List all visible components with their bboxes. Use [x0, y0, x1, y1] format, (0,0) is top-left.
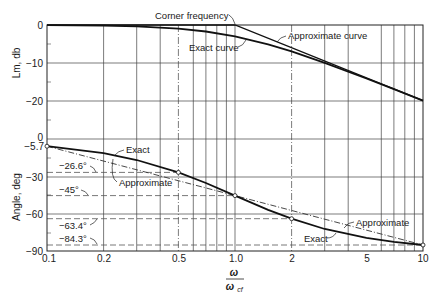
ref-arrow-26-6 [90, 166, 96, 172]
ref-label-84-3: −84.3° [59, 233, 87, 244]
bode-plot: 0 −10 −20 0 −5.7 −30 −60 −90 0.1 0.2 0.5… [0, 0, 441, 297]
ref-arrow-63-4 [90, 219, 97, 225]
phase-ylabel: Angle, deg [11, 173, 22, 221]
x-tick-5: 5 [364, 253, 370, 264]
minor-ticks [47, 44, 51, 233]
ref-label-63-4: −63.4° [59, 220, 87, 231]
annotation-corner-frequency: Corner frequency [155, 10, 229, 21]
approx-phase-arrow [112, 159, 117, 182]
mag-tick-0: 0 [37, 20, 43, 31]
mag-tick-10: −10 [26, 58, 43, 69]
approx-curve-arrow [277, 36, 286, 42]
exact-phase-arrow [115, 150, 124, 155]
x-tick-1: 1.0 [229, 253, 243, 264]
x-tick-2: 2 [289, 253, 295, 264]
ref-arrow-84-3 [90, 238, 97, 244]
corner-arrow [229, 15, 235, 24]
ref-arrow-45 [81, 190, 88, 195]
phase-tick-5-7: −5.7 [24, 141, 44, 152]
phase-tick-30: −30 [26, 172, 43, 183]
x-label-denominator: ω [226, 281, 235, 292]
x-label-subscript: cf [237, 286, 244, 293]
annotation-approximate-phase: Approximate [119, 177, 172, 188]
x-label-numerator: ω [230, 267, 239, 278]
x-tick-0-1: 0.1 [42, 253, 56, 264]
mag-ylabel: Lm, db [11, 47, 22, 78]
annotation-exact-curve: Exact curve [189, 42, 239, 53]
exact-curve-arrow [238, 40, 246, 47]
x-tick-10: 10 [417, 253, 429, 264]
exact-phase-right-arrow [327, 233, 336, 238]
phase-tick-60: −60 [26, 209, 43, 220]
x-tick-0-5: 0.5 [172, 253, 186, 264]
ref-label-45: −45° [59, 184, 79, 195]
annotation-exact-phase: Exact [126, 144, 150, 155]
mag-tick-20: −20 [26, 96, 43, 107]
annotation-approximate-curve: Approximate curve [288, 30, 367, 41]
annotation-approximate-phase-right: Approximate [356, 217, 409, 228]
annotation-exact-phase-right: Exact [304, 233, 328, 244]
x-tick-0-2: 0.2 [97, 253, 111, 264]
ref-label-26-6: −26.6° [59, 160, 87, 171]
phase-tick-90: −90 [26, 246, 43, 257]
